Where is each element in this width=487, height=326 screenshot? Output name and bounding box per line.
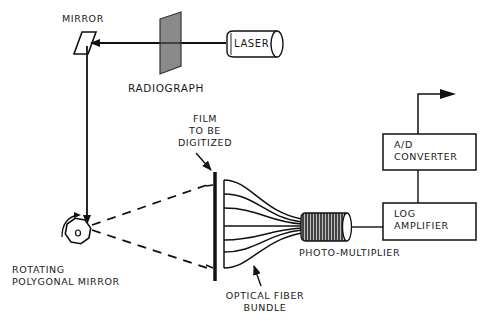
film-label-line-3: DIGITIZED bbox=[160, 137, 250, 149]
ad-converter-label-line-2: CONVERTER bbox=[394, 151, 457, 163]
ad-converter-label-line-1: A/D bbox=[394, 139, 457, 151]
fiber-bundle-label-line-2: BUNDLE bbox=[215, 302, 315, 314]
fiber-bundle-label: OPTICAL FIBER BUNDLE bbox=[215, 290, 315, 314]
log-amplifier-label-line-1: LOG bbox=[394, 208, 449, 220]
digitizer-diagram: MIRROR RADIOGRAPH LASER FILM TO BE DIGIT… bbox=[0, 0, 487, 326]
film-label-line-2: TO BE bbox=[160, 125, 250, 137]
film-label: FILM TO BE DIGITIZED bbox=[160, 113, 250, 149]
scan-beams bbox=[92, 185, 207, 268]
film-label-line-1: FILM bbox=[160, 113, 250, 125]
radiograph bbox=[160, 12, 181, 74]
film bbox=[196, 153, 215, 281]
log-amplifier-label: LOG AMPLIFIER bbox=[394, 208, 449, 232]
output-arrow bbox=[418, 89, 456, 134]
photomultiplier bbox=[301, 213, 352, 241]
polygonal-mirror-label-line-2: POLYGONAL MIRROR bbox=[12, 276, 120, 288]
optical-fiber-bundle bbox=[224, 180, 302, 286]
log-amplifier-label-line-2: AMPLIFIER bbox=[394, 220, 449, 232]
fiber-bundle-label-line-1: OPTICAL FIBER bbox=[215, 290, 315, 302]
ad-converter-label: A/D CONVERTER bbox=[394, 139, 457, 163]
laser-label: LASER bbox=[234, 38, 269, 50]
mirror-label: MIRROR bbox=[62, 13, 104, 25]
photomultiplier-label: PHOTO-MULTIPLIER bbox=[299, 247, 400, 259]
polygonal-mirror-label: ROTATING POLYGONAL MIRROR bbox=[12, 264, 120, 288]
polygonal-mirror-label-line-1: ROTATING bbox=[12, 264, 120, 276]
radiograph-label: RADIOGRAPH bbox=[128, 82, 204, 94]
